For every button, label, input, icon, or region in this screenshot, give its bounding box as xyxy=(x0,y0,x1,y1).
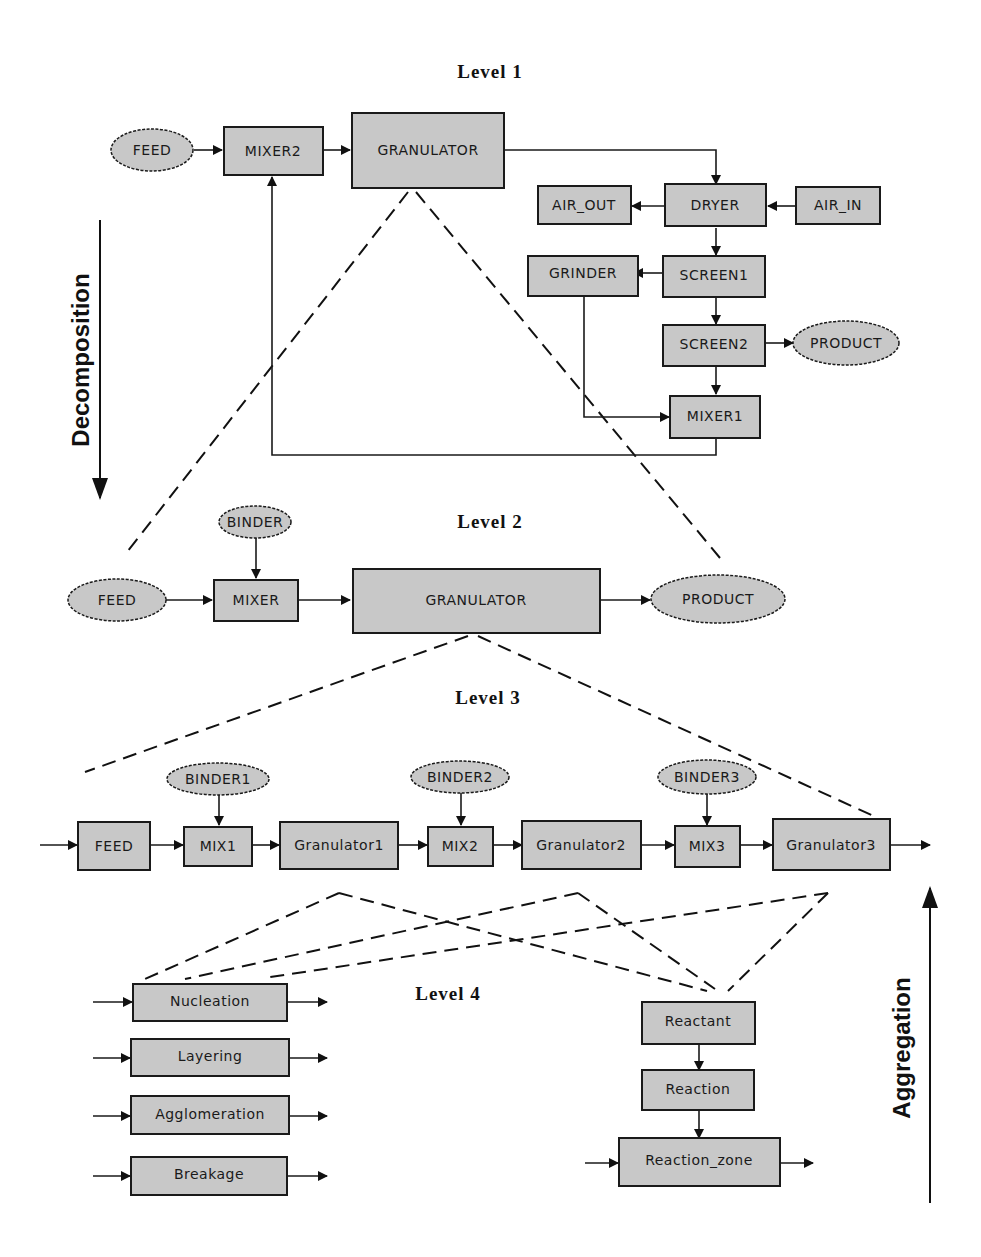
l1-air-in-label: AIR_IN xyxy=(814,197,862,213)
l2-feed-label: FEED xyxy=(98,592,137,608)
l3-granulator2-label: Granulator2 xyxy=(536,837,626,853)
l4-reaction-label: Reaction xyxy=(666,1081,731,1097)
l3-granulator1-label: Granulator1 xyxy=(294,837,384,853)
l3-feed-label: FEED xyxy=(95,838,134,854)
l4-breakage-label: Breakage xyxy=(174,1166,244,1182)
l1-mixer2-label: MIXER2 xyxy=(245,143,301,159)
level-3: BINDER1 BINDER2 BINDER3 FEED MIX1 Granul… xyxy=(40,760,930,870)
decomposition-label: Decomposition xyxy=(67,273,94,446)
l4-layering-label: Layering xyxy=(178,1048,243,1064)
level-4: Nucleation Layering Agglomeration Breaka… xyxy=(93,984,813,1195)
l1-screen2-label: SCREEN2 xyxy=(680,336,749,352)
l1-mixer1-label: MIXER1 xyxy=(687,408,743,424)
l4-agglomeration-label: Agglomeration xyxy=(155,1106,265,1122)
l2-binder-label: BINDER xyxy=(227,514,284,530)
level-2-label: Level 2 xyxy=(457,511,523,532)
l1-feed-label: FEED xyxy=(133,142,172,158)
l2-product-label: PRODUCT xyxy=(682,591,754,607)
l4-nucleation-label: Nucleation xyxy=(170,993,250,1009)
l1-granulator-label: GRANULATOR xyxy=(377,142,478,158)
aggregation-label: Aggregation xyxy=(888,977,915,1118)
level-4-label: Level 4 xyxy=(415,983,481,1004)
l4-reactant-label: Reactant xyxy=(665,1013,731,1029)
l1-product-label: PRODUCT xyxy=(810,335,882,351)
hierarchy-diagram: Level 1 Level 2 Level 3 Level 4 Decompos… xyxy=(0,0,981,1257)
level-2: BINDER FEED MIXER GRANULATOR PRODUCT xyxy=(68,506,785,633)
l3-mix3-label: MIX3 xyxy=(689,838,726,854)
aggregation-arrow: Aggregation xyxy=(888,886,939,1203)
l1-grinder-label: GRINDER xyxy=(549,265,617,281)
l2-granulator-label: GRANULATOR xyxy=(425,592,526,608)
l2-mixer-label: MIXER xyxy=(233,592,280,608)
l3-mix1-label: MIX1 xyxy=(200,838,237,854)
l4-reaction-zone-label: Reaction_zone xyxy=(645,1152,753,1168)
l3-binder1-label: BINDER1 xyxy=(185,771,251,787)
level-1: FEED MIXER2 GRANULATOR AIR_OUT DRYER AIR… xyxy=(111,113,899,455)
l1-screen1-label: SCREEN1 xyxy=(680,267,749,283)
l3-granulator3-label: Granulator3 xyxy=(786,837,876,853)
l3-binder3-label: BINDER3 xyxy=(674,769,740,785)
l1-dryer-label: DRYER xyxy=(690,197,739,213)
l3-binder2-label: BINDER2 xyxy=(427,769,493,785)
decomposition-arrow: Decomposition xyxy=(67,220,109,500)
l1-air-out-label: AIR_OUT xyxy=(552,197,616,213)
l3-mix2-label: MIX2 xyxy=(442,838,479,854)
level-3-label: Level 3 xyxy=(455,687,521,708)
level-1-label: Level 1 xyxy=(457,61,523,82)
